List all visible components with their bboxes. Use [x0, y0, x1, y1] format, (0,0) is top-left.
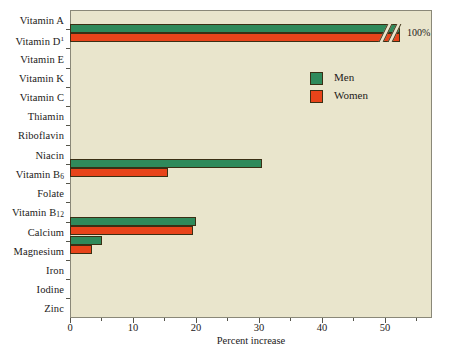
y-axis-label-magnesium: Magnesium [0, 246, 64, 257]
x-axis-tick-minor [416, 318, 417, 321]
y-axis-label-zinc: Zinc [0, 303, 64, 314]
y-axis-label-iron: Iron [0, 265, 64, 276]
x-axis-tick-minor [290, 318, 291, 321]
bar-annotation-100-percent: 100% [407, 27, 430, 38]
bar-women-calcium [70, 226, 193, 235]
bar-women-vitamin-b6 [70, 168, 168, 177]
legend-swatch-men-icon [310, 72, 323, 85]
y-axis-label-vitamin-a: Vitamin A [0, 15, 64, 26]
y-axis-tick [66, 298, 70, 299]
x-axis-tick-label-10: 10 [116, 322, 150, 333]
legend-swatch-women-icon [310, 90, 323, 103]
y-axis-tick [66, 125, 70, 126]
x-axis-tick-minor [101, 318, 102, 321]
y-axis-category-labels: Vitamin A Vitamin D1 Vitamin E Vitamin K… [0, 10, 64, 318]
y-axis-label-vitamin-k: Vitamin K [0, 73, 64, 84]
y-axis-label-vitamin-e: Vitamin E [0, 54, 64, 65]
x-axis-tick-label-30: 30 [242, 322, 276, 333]
y-axis-tick [66, 279, 70, 280]
bar-men-calcium [70, 217, 196, 226]
y-axis-tick [66, 68, 70, 69]
x-axis-tick-label-40: 40 [305, 322, 339, 333]
bar-men-vitamin-b6 [70, 159, 262, 168]
y-axis-label-vitamin-b6: Vitamin B6 [0, 169, 64, 182]
bar-men-vitamin-d [70, 24, 400, 33]
y-axis-tick [66, 183, 70, 184]
x-axis-tick-label-20: 20 [179, 322, 213, 333]
x-axis-tick-minor [164, 318, 165, 321]
y-axis-label-riboflavin: Riboflavin [0, 130, 64, 141]
y-axis-tick [66, 106, 70, 107]
y-axis-tick [66, 260, 70, 261]
x-axis-tick-label-50: 50 [368, 322, 402, 333]
y-axis-label-niacin: Niacin [0, 150, 64, 161]
bar-women-magnesium [70, 245, 92, 254]
y-axis-tick [66, 202, 70, 203]
y-axis-label-thiamin: Thiamin [0, 111, 64, 122]
y-axis-tick [66, 48, 70, 49]
y-axis-tick [66, 145, 70, 146]
y-axis-label-folate: Folate [0, 188, 64, 199]
bar-women-vitamin-d [70, 33, 400, 42]
y-axis-tick [66, 87, 70, 88]
x-axis-title: Percent increase [70, 335, 432, 346]
y-axis-label-calcium: Calcium [0, 227, 64, 238]
legend-label-women: Women [334, 89, 368, 101]
x-axis-tick-minor [227, 318, 228, 321]
y-axis-label-vitamin-b12: Vitamin B12 [0, 207, 64, 220]
legend-label-men: Men [334, 71, 354, 83]
x-axis-tick-label-0: 0 [53, 322, 87, 333]
y-axis-label-vitamin-c: Vitamin C [0, 92, 64, 103]
bar-men-magnesium [70, 236, 102, 245]
chart-figure: Vitamin A Vitamin D1 Vitamin E Vitamin K… [0, 0, 451, 348]
y-axis-label-vitamin-d: Vitamin D1 [0, 34, 64, 47]
y-axis-label-iodine: Iodine [0, 284, 64, 295]
x-axis-tick-minor [353, 318, 354, 321]
